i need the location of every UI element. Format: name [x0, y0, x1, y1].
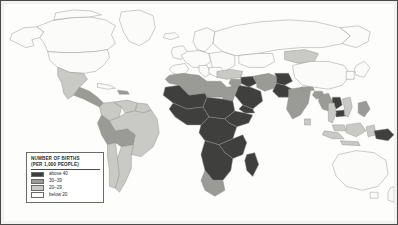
legend-label-below-20: below 20 — [49, 192, 67, 198]
country-turkey — [217, 69, 243, 79]
country-sri-lanka — [304, 119, 310, 125]
legend-label-above-40: above 40 — [49, 171, 68, 177]
legend-swatch-below-20 — [31, 192, 44, 197]
legend-swatch-above-40 — [31, 172, 44, 177]
legend-item: 30–39 — [31, 178, 100, 184]
country-indonesia-java — [340, 141, 360, 146]
country-libya — [205, 81, 227, 97]
legend-swatch-30-39 — [31, 179, 44, 184]
legend: NUMBER OF BIRTHS (PER 1,000 PEOPLE) abov… — [26, 152, 104, 203]
legend-item: below 20 — [31, 192, 100, 198]
country-korea — [346, 71, 354, 79]
country-canada — [37, 17, 116, 53]
legend-label-30-39: 30–39 — [49, 178, 62, 184]
country-tasmania — [370, 192, 378, 198]
country-malaysia — [332, 125, 346, 131]
map-figure: NUMBER OF BIRTHS (PER 1,000 PEOPLE) abov… — [0, 0, 398, 225]
map-plate: NUMBER OF BIRTHS (PER 1,000 PEOPLE) abov… — [4, 4, 394, 221]
legend-item: 20–29 — [31, 185, 100, 191]
legend-item: above 40 — [31, 171, 100, 177]
legend-title-rule — [31, 169, 100, 170]
legend-label-20-29: 20–29 — [49, 185, 62, 191]
legend-title-line2: (PER 1,000 PEOPLE) — [31, 162, 100, 168]
legend-swatch-20-29 — [31, 185, 44, 190]
